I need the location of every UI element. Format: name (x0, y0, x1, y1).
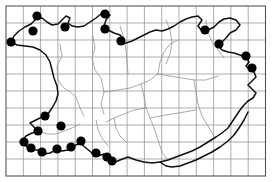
record-dot (32, 11, 41, 20)
record-dot (6, 37, 15, 46)
county-boundaries-layer (34, 20, 224, 160)
record-dot (26, 143, 35, 152)
record-dot (107, 156, 116, 165)
record-dot (241, 51, 250, 60)
coastline-outline-layer (11, 12, 256, 167)
record-dot (116, 36, 125, 45)
record-dot (200, 25, 209, 34)
record-dot (52, 144, 61, 153)
record-dot (247, 63, 256, 72)
map-canvas (0, 0, 272, 182)
record-dot (37, 147, 46, 156)
record-dot (100, 24, 109, 33)
record-dot (28, 26, 37, 35)
record-dot (214, 39, 223, 48)
record-dot (91, 148, 100, 157)
record-dot (19, 137, 28, 146)
record-dot (33, 126, 42, 135)
record-dot (60, 22, 69, 31)
record-dot (56, 121, 65, 130)
record-dot (100, 9, 109, 18)
record-dot (76, 136, 85, 145)
record-dot (40, 111, 49, 120)
record-dot (66, 142, 75, 151)
distribution-map-figure (0, 0, 272, 182)
